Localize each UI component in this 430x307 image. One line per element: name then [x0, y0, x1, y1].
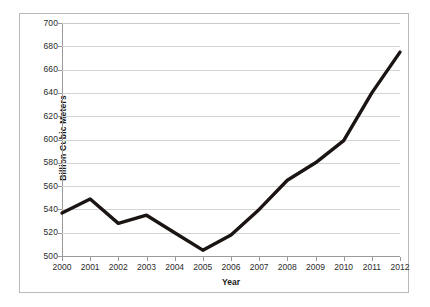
x-axis-title: Year [62, 277, 400, 287]
series-line-group [62, 23, 400, 256]
x-axis-tick-mark [287, 257, 288, 261]
x-axis-tick-mark [231, 257, 232, 261]
line-chart: Billion Cubic Meters 5005205405605806006… [20, 14, 408, 292]
y-axis-tick-marks [20, 23, 62, 256]
x-axis-tick-labels: 2000200120022003200420052006200720082009… [62, 257, 400, 273]
x-axis-tick-mark [400, 257, 401, 261]
x-axis-tick-mark [90, 257, 91, 261]
x-axis-tick-mark [344, 257, 345, 261]
data-series-line [62, 52, 400, 250]
x-axis-tick-mark [62, 257, 63, 261]
x-axis-tick-mark [316, 257, 317, 261]
x-axis-tick-label: 2012 [383, 262, 417, 272]
x-axis-tick-mark [118, 257, 119, 261]
x-axis-tick-mark [372, 257, 373, 261]
plot-region [62, 23, 400, 256]
x-axis-tick-mark [175, 257, 176, 261]
x-axis-tick-mark [147, 257, 148, 261]
figure-frame: Billion Cubic Meters 5005205405605806006… [19, 13, 409, 293]
x-axis-tick-mark [203, 257, 204, 261]
x-axis-tick-mark [259, 257, 260, 261]
